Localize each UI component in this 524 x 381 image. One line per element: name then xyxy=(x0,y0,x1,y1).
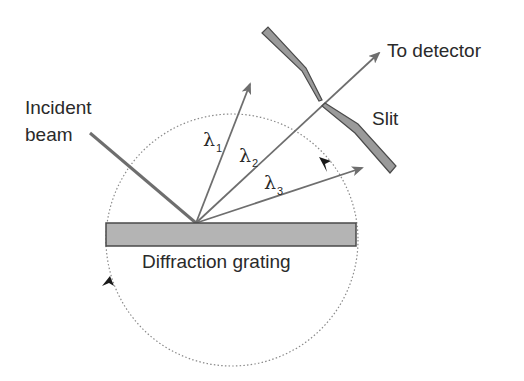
diffraction-grating xyxy=(106,223,356,246)
lambda1-label: λ 1 xyxy=(203,128,222,154)
diffraction-diagram: Incident beam To detector Slit Diffracti… xyxy=(0,0,524,381)
svg-text:2: 2 xyxy=(252,157,258,169)
to-detector-label: To detector xyxy=(387,40,482,61)
svg-text:1: 1 xyxy=(216,142,222,154)
lambda2-label: λ 2 xyxy=(239,144,258,169)
incident-label-line1: Incident xyxy=(25,97,92,118)
svg-text:λ: λ xyxy=(203,128,215,150)
ray-lambda2-to-detector xyxy=(196,53,379,223)
slit-label: Slit xyxy=(372,108,399,129)
svg-text:λ: λ xyxy=(264,171,276,193)
incident-beam-line xyxy=(90,133,196,223)
slit-upper-jaw xyxy=(262,27,322,101)
svg-text:λ: λ xyxy=(239,144,251,166)
svg-text:3: 3 xyxy=(277,185,283,197)
incident-label-line2: beam xyxy=(25,124,73,145)
grating-label: Diffraction grating xyxy=(142,251,291,272)
lambda3-label: λ 3 xyxy=(264,171,283,197)
rotation-arrow-icon-lower xyxy=(102,276,114,286)
